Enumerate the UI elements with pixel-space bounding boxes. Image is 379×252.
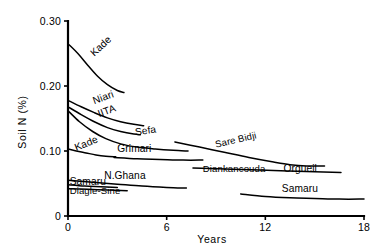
series-label: Kade (73, 134, 100, 153)
series-line (241, 194, 364, 199)
series-label: N.Ghana (104, 170, 146, 181)
y-axis-title: Soil N (%) (16, 95, 28, 148)
x-tick-label: 0 (65, 221, 71, 233)
series-label: Orgueil (283, 163, 317, 174)
y-tick-label: 0.10 (40, 145, 61, 157)
series-label: Kade (88, 34, 113, 59)
chart-canvas: 06121800.100.200.30 KadeNiariIITASefaKad… (0, 0, 379, 252)
series-line (114, 158, 203, 161)
series-label: Samaru (282, 183, 318, 194)
series-label: Diagle-Sine (70, 185, 121, 196)
y-tick-label: 0.20 (40, 80, 61, 92)
y-tick-label: 0.30 (40, 15, 61, 27)
tick-labels-group: 06121800.100.200.30 (40, 15, 370, 233)
x-tick-label: 12 (259, 221, 271, 233)
x-tick-label: 6 (164, 221, 170, 233)
series-annotations-group: KadeNiariIITASefaKadeGrimariSare BidjiDi… (70, 34, 318, 196)
series-label: Diankancouda (203, 163, 266, 174)
y-tick-label: 0 (55, 210, 61, 222)
x-axis-title: Years (197, 233, 226, 245)
series-line (175, 142, 325, 166)
series-label: Sare Bidji (214, 130, 257, 150)
series-label: IITA (96, 102, 117, 119)
series-label: Sefa (134, 123, 157, 137)
series-label: Grimari (117, 143, 151, 154)
x-tick-label: 18 (358, 221, 370, 233)
soil-nitrogen-decline-chart: 06121800.100.200.30 KadeNiariIITASefaKad… (0, 0, 379, 252)
